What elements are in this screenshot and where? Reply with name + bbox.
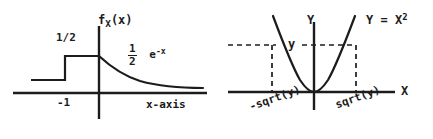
parabola-level-label: y	[288, 38, 295, 50]
pdf-y-axis-label: fX(x)	[98, 14, 133, 28]
parabola-x-axis-label-text: X	[401, 84, 408, 98]
parabola-chart-panel: Y y Y = X2 -sqrt(y) sqrt(y) X	[216, 0, 433, 139]
pdf-x-tick-label-minus-one-text: -1	[57, 96, 70, 109]
pdf-curve-equation-base: e	[149, 48, 156, 61]
parabola-y-axis-label: Y	[307, 14, 314, 26]
parabola-curve-label-equals: =	[380, 13, 387, 27]
parabola-y-axis-label-text: Y	[307, 13, 314, 27]
pdf-curve-equation-fraction: 1 2	[128, 43, 137, 67]
pdf-chart-panel: fX(x) 1/2 1 2 e-x -1 x-axis	[0, 0, 216, 139]
parabola-x-axis-label: X	[401, 85, 408, 97]
pdf-curve-equation-denominator: 2	[128, 56, 137, 68]
parabola-level-label-text: y	[288, 37, 295, 51]
pdf-curve-equation-numerator: 1	[128, 43, 137, 56]
pdf-height-label: 1/2	[56, 32, 76, 43]
pdf-curve-equation-label: 1 2 e-x	[128, 43, 166, 67]
pdf-uniform-step-path	[31, 56, 99, 80]
parabola-curve-label-lhs: Y	[366, 13, 373, 27]
pdf-y-axis-label-arg: (x)	[111, 13, 133, 27]
figure-root: fX(x) 1/2 1 2 e-x -1 x-axis	[0, 0, 433, 139]
parabola-curve-label: Y = X2	[366, 13, 408, 26]
pdf-curve-equation-exponent: -x	[156, 46, 166, 56]
parabola-curve-label-exponent: 2	[402, 12, 407, 22]
pdf-height-label-text: 1/2	[56, 31, 76, 44]
pdf-x-axis-label-text: x-axis	[146, 98, 186, 111]
pdf-x-axis-label: x-axis	[146, 99, 186, 110]
pdf-x-tick-label-minus-one: -1	[57, 97, 70, 108]
